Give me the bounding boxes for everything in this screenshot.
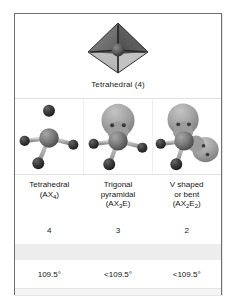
lone-pair-dot [110, 123, 114, 127]
shape-name-row: Tetrahedral (AX4) Trigonal pyramidal (AX… [15, 175, 221, 217]
bond-angle-tetrahedral: 109.5° [15, 270, 84, 279]
bond-angle-bent: <109.5° [152, 270, 221, 279]
geometry-header-row: Tetrahedral (4) [15, 14, 221, 98]
bond-angle-row: 109.5° <109.5° <109.5° [15, 260, 221, 288]
geometry-caption: Tetrahedral (4) [15, 80, 221, 89]
tetrahedron-icon [81, 17, 155, 79]
terminal-atom [43, 105, 55, 117]
bonded-atom-count-row: 4 3 2 [15, 217, 221, 244]
shape-name-bent: V shaped or bent (AX2E2) [152, 175, 221, 217]
lone-pair-dot [202, 144, 206, 148]
terminal-atom [156, 139, 166, 149]
shape-formula: (AX4) [15, 190, 84, 201]
bonded-count-tetrahedral: 4 [15, 226, 84, 235]
vsepr-figure-frame: Tetrahedral (4) [14, 13, 222, 295]
ball-and-stick-trigonal-pyramidal-icon [84, 99, 152, 174]
row-divider-band [15, 244, 221, 260]
lone-pair-dot [206, 153, 210, 157]
model-cell-bent [152, 99, 221, 174]
shape-name-line2: pyramidal [101, 190, 136, 199]
figure-footer-band [15, 288, 221, 295]
shape-name-line2: or bent [174, 190, 199, 199]
ball-and-stick-bent-icon [153, 99, 221, 174]
lone-pair-dot [187, 122, 191, 126]
terminal-atom [170, 158, 182, 170]
terminal-atom [68, 140, 78, 150]
shape-formula: (AX2E2) [152, 199, 221, 210]
model-cell-tetrahedral [15, 99, 83, 174]
shape-name-line1: Tetrahedral [29, 180, 69, 189]
shape-name-trigonal-pyramidal: Trigonal pyramidal (AX3E) [84, 175, 153, 217]
ball-and-stick-tetrahedral-icon [15, 99, 83, 174]
lone-pair-dot [176, 122, 180, 126]
bonded-count-bent: 2 [152, 226, 221, 235]
shape-name-tetrahedral: Tetrahedral (AX4) [15, 175, 84, 217]
central-atom [108, 131, 127, 150]
model-cell-trigonal-pyramidal [83, 99, 152, 174]
terminal-atom [32, 157, 44, 169]
molecular-models-row [15, 98, 221, 175]
central-atom [174, 131, 193, 150]
terminal-atom [89, 139, 99, 149]
bond-angle-trigonal-pyramidal: <109.5° [84, 270, 153, 279]
shape-name-line1: Trigonal [104, 180, 133, 189]
bonded-count-trigonal-pyramidal: 3 [84, 226, 153, 235]
shape-formula: (AX3E) [84, 199, 153, 210]
shape-name-line1: V shaped [170, 180, 204, 189]
terminal-atom [137, 143, 147, 153]
terminal-atom [103, 158, 115, 170]
terminal-atom [20, 136, 30, 146]
central-atom [39, 128, 58, 147]
tetrahedron-graphic [81, 17, 155, 79]
lone-pair-dot [122, 123, 126, 127]
